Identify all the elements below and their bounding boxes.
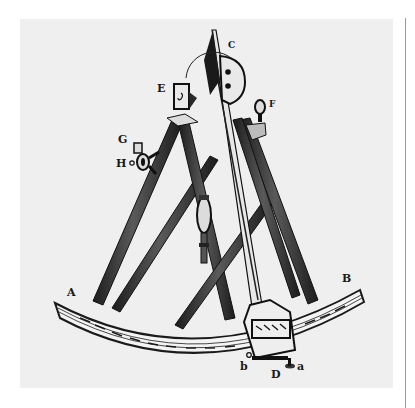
label-g: G: [118, 133, 127, 146]
horizon-mirror-e: [167, 84, 198, 126]
label-d: D: [271, 368, 281, 381]
label-h: H: [116, 157, 126, 170]
label-a-lower: a: [297, 360, 304, 373]
label-c: C: [228, 40, 235, 50]
sextant-illustration: A B C D E F G H a b: [0, 0, 415, 408]
label-b-lower: b: [240, 360, 248, 373]
label-f: F: [269, 99, 276, 109]
vernier-d: [244, 300, 295, 369]
label-e: E: [157, 82, 165, 95]
label-a-upper: A: [66, 286, 76, 299]
label-b-upper: B: [342, 272, 351, 285]
